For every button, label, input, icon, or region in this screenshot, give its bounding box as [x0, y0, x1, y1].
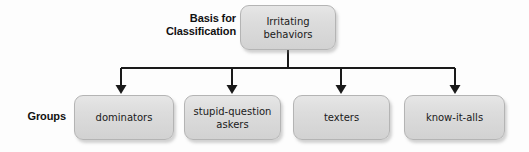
classification-tree-diagram: Basis for Classification Groups Irritati…	[0, 0, 529, 152]
node-know-it-alls-label: know-it-alls	[426, 111, 483, 124]
arrowhead-dominators	[116, 85, 127, 94]
node-irritating-behaviors-label: Irritating behaviors	[263, 15, 312, 41]
row-label-groups: Groups	[0, 110, 66, 123]
node-dominators-label: dominators	[96, 111, 153, 124]
arrowhead-texters	[336, 85, 347, 94]
node-texters[interactable]: texters	[293, 95, 390, 140]
node-know-it-alls[interactable]: know-it-alls	[404, 95, 505, 140]
arrowhead-stupid-question-askers	[227, 85, 238, 94]
node-dominators[interactable]: dominators	[74, 95, 174, 140]
node-irritating-behaviors[interactable]: Irritating behaviors	[240, 5, 336, 50]
node-stupid-question-askers[interactable]: stupid-question askers	[184, 95, 281, 140]
node-texters-label: texters	[324, 111, 359, 124]
row-label-basis-for-classification: Basis for Classification	[150, 12, 236, 38]
arrowhead-know-it-alls	[450, 85, 461, 94]
node-stupid-question-askers-label: stupid-question askers	[194, 105, 272, 131]
